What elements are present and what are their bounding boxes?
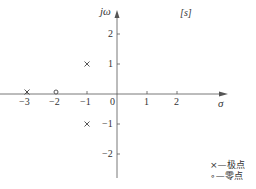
- zero-icon: [54, 90, 58, 94]
- legend-zero: ∘—零点: [210, 171, 245, 182]
- legend-pole: ×—极点: [210, 160, 245, 171]
- pole-icon: [85, 122, 90, 127]
- x-tick-label: 0: [110, 97, 115, 107]
- y-tick-label: −1: [102, 119, 113, 129]
- y-tick-label: 2: [108, 29, 113, 39]
- plane-label: [s]: [180, 8, 192, 18]
- legend: ×—极点 ∘—零点: [210, 160, 245, 182]
- sigma-arrow-icon: [219, 92, 228, 97]
- x-tick-label: −3: [19, 97, 30, 107]
- pole-icon: [85, 62, 90, 67]
- pole-zero-plot: jω [s] σ −3 −2 −1 0 1 2 2 1 −1 −2 ×—极点 ∘…: [0, 0, 256, 189]
- x-tick-label: −2: [49, 97, 60, 107]
- y-tick-label: 1: [108, 59, 113, 69]
- x-tick-label: −1: [80, 97, 91, 107]
- y-tick-label: −2: [102, 149, 113, 159]
- x-axis-label: σ: [218, 98, 223, 108]
- y-axis-label: jω: [100, 6, 111, 16]
- x-tick-label: 2: [174, 97, 179, 107]
- jw-arrow-icon: [115, 10, 120, 18]
- x-tick-label: 1: [144, 97, 149, 107]
